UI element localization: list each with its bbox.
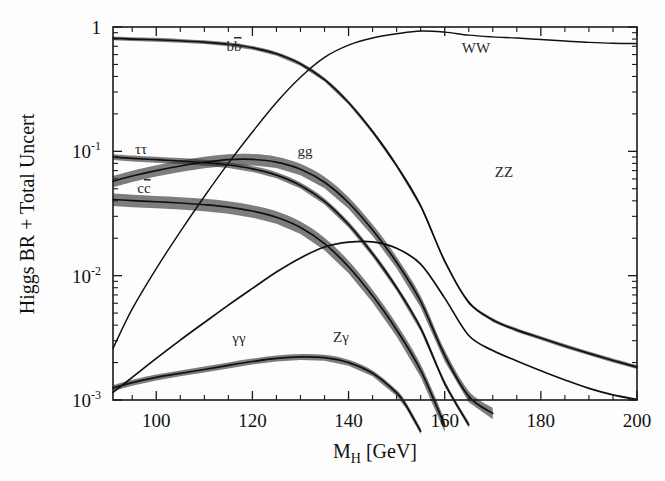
figure-canvas: 100120140160180200 110-110-210-3 bbWWττg… — [0, 0, 665, 481]
x-tick-label: 180 — [527, 410, 556, 431]
x-axis-tick-labels: 100120140160180200 — [142, 410, 651, 431]
x-tick-label: 140 — [334, 410, 363, 431]
higgs-branching-ratio-chart: 100120140160180200 110-110-210-3 bbWWττg… — [0, 0, 665, 481]
x-axis-title: MH [GeV] — [333, 440, 417, 466]
y-tick-label: 1 — [92, 17, 102, 38]
curve-label-ZZ: ZZ — [495, 164, 513, 180]
curve-label-tautau: ττ — [135, 141, 147, 157]
y-tick-label: 10-2 — [72, 264, 101, 287]
x-axis-title-subscript: H — [351, 451, 361, 466]
x-tick-label: 100 — [142, 410, 171, 431]
x-tick-label: 160 — [430, 410, 459, 431]
curve-label-bb: bb — [227, 38, 242, 54]
y-axis-title: Higgs BR + Total Uncert — [16, 113, 39, 314]
uncertainty-band-gg — [113, 154, 493, 420]
uncertainty-band-cc — [113, 194, 445, 432]
x-tick-label: 120 — [238, 410, 267, 431]
curve-label-cc: cc — [137, 180, 151, 196]
x-axis-title-main: M — [333, 440, 351, 462]
svg-text:Higgs BR + Total Uncert: Higgs BR + Total Uncert — [16, 113, 39, 314]
curve-label-gg: gg — [298, 143, 314, 159]
curve-labels: bbWWττggccZZγγZγ — [135, 38, 513, 346]
x-tick-label: 200 — [623, 410, 652, 431]
svg-text:MH [GeV]: MH [GeV] — [333, 440, 417, 466]
y-tick-label: 10-1 — [72, 139, 101, 162]
curve-label-WW: WW — [462, 40, 491, 56]
y-axis-tick-labels: 110-110-210-3 — [72, 17, 101, 411]
y-tick-label: 10-3 — [72, 388, 101, 411]
curve-label-gamgam: γγ — [231, 330, 246, 346]
x-axis-title-unit: [GeV] — [361, 440, 417, 462]
curve-label-Zgam: Zγ — [333, 329, 349, 345]
